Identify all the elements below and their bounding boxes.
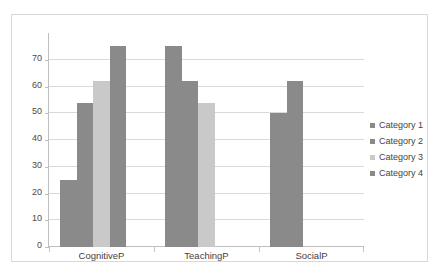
- legend-item-category-4[interactable]: Category 4: [370, 165, 430, 181]
- bar-teachingp-category-1[interactable]: [165, 46, 182, 247]
- bar-cognitivep-category-2[interactable]: [77, 103, 94, 247]
- bar-group-cognitivep: [49, 33, 154, 247]
- bar-cognitivep-category-3[interactable]: [93, 81, 110, 247]
- bar-socialp-category-1[interactable]: [270, 113, 287, 247]
- legend-swatch-icon: [370, 171, 375, 176]
- x-axis-separator: [259, 247, 260, 252]
- y-tick-label: 0: [37, 240, 42, 251]
- y-tick-label: 30: [32, 160, 42, 171]
- legend-swatch-icon: [370, 155, 375, 160]
- x-tick-label-socialp: SocialP: [259, 249, 364, 262]
- bar-group-teachingp: [154, 33, 259, 247]
- bar-teachingp-category-2[interactable]: [182, 81, 199, 247]
- legend-swatch-icon: [370, 123, 375, 128]
- x-tick-label-teachingp: TeachingP: [154, 249, 259, 262]
- bars-layer: [49, 33, 364, 247]
- legend-item-category-1[interactable]: Category 1: [370, 117, 430, 133]
- legend-label: Category 4: [379, 168, 423, 179]
- bar-cognitivep-category-1[interactable]: [60, 180, 77, 247]
- plot-area: [49, 33, 364, 247]
- y-tick-label: 10: [32, 213, 42, 224]
- x-tick-label-cognitivep: CognitiveP: [49, 249, 154, 262]
- x-axis-separator: [363, 247, 364, 252]
- y-tick-label: 20: [32, 187, 42, 198]
- legend-label: Category 3: [379, 152, 423, 163]
- legend-label: Category 1: [379, 120, 423, 131]
- bar-socialp-category-2[interactable]: [287, 81, 304, 247]
- x-axis-separator: [154, 247, 155, 252]
- y-tick-label: 40: [32, 133, 42, 144]
- legend-item-category-2[interactable]: Category 2: [370, 133, 430, 149]
- chart-frame: 010203040506070 CognitivePTeachingPSocia…: [11, 14, 428, 262]
- bar-cognitivep-category-4[interactable]: [110, 46, 127, 247]
- legend-item-category-3[interactable]: Category 3: [370, 149, 430, 165]
- y-tick-label: 50: [32, 106, 42, 117]
- bar-group-socialp: [259, 33, 364, 247]
- chart-legend: Category 1Category 2Category 3Category 4: [370, 117, 430, 181]
- x-axis: CognitivePTeachingPSocialP: [49, 249, 364, 267]
- y-tick-label: 60: [32, 80, 42, 91]
- legend-label: Category 2: [379, 136, 423, 147]
- x-axis-separator: [49, 247, 50, 252]
- bar-teachingp-category-3[interactable]: [198, 103, 215, 247]
- y-tick-label: 70: [32, 53, 42, 64]
- y-axis: 010203040506070: [12, 33, 49, 247]
- legend-swatch-icon: [370, 139, 375, 144]
